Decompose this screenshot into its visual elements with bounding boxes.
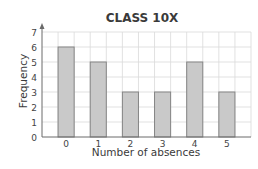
bar-0 — [58, 47, 74, 137]
x-tick-label: 5 — [224, 139, 230, 149]
y-tick-label: 0 — [31, 133, 37, 143]
x-axis-label: Number of absences — [92, 146, 200, 158]
y-tick-label: 7 — [31, 28, 37, 38]
bar-1 — [90, 62, 106, 137]
y-tick-labels: 01234567 — [31, 28, 37, 143]
bar-5 — [219, 92, 235, 137]
y-tick-label: 6 — [31, 43, 37, 53]
y-axis-arrow-icon — [40, 23, 45, 29]
x-tick-label: 0 — [63, 139, 69, 149]
bar-chart: CLASS 10X 01234567 012345 Number of abse… — [0, 0, 258, 169]
y-tick-label: 1 — [31, 118, 37, 128]
y-tick-label: 4 — [31, 73, 37, 83]
y-tick-label: 2 — [31, 103, 37, 113]
y-tick-label: 5 — [31, 58, 37, 68]
y-axis-label: Frequency — [17, 54, 29, 108]
bar-4 — [187, 62, 203, 137]
chart-title: CLASS 10X — [106, 11, 179, 25]
y-tick-label: 3 — [31, 88, 37, 98]
bar-2 — [122, 92, 138, 137]
bar-3 — [155, 92, 171, 137]
